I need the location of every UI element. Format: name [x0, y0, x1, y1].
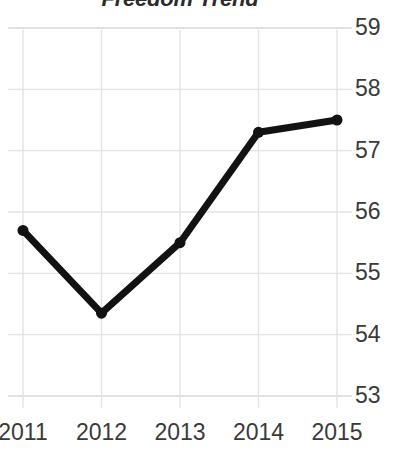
x-axis-tick-label: 2014	[224, 420, 294, 444]
data-point-marker	[332, 115, 343, 126]
y-axis-tick-label: 59	[355, 16, 399, 39]
x-axis-tick-label: 2011	[0, 420, 58, 444]
y-axis-tick-label: 56	[355, 200, 399, 223]
chart-container: Freedom Trend 59585756555453 20112012201…	[0, 0, 408, 458]
data-point-marker	[18, 225, 29, 236]
plot-area	[0, 0, 360, 458]
data-point-marker	[96, 308, 107, 319]
y-axis-tick-label: 54	[355, 323, 399, 346]
x-axis-tick-label: 2013	[145, 420, 215, 444]
chart-plot-svg	[0, 0, 360, 458]
data-point-marker	[175, 237, 186, 248]
y-axis-tick-label: 57	[355, 139, 399, 162]
y-axis-tick-label: 58	[355, 77, 399, 100]
y-axis-tick-label: 53	[355, 384, 399, 407]
data-point-marker	[253, 127, 264, 138]
x-axis-tick-label: 2015	[302, 420, 372, 444]
x-axis-tick-label: 2012	[67, 420, 137, 444]
y-axis-tick-label: 55	[355, 261, 399, 284]
vertical-gridlines	[23, 30, 337, 408]
